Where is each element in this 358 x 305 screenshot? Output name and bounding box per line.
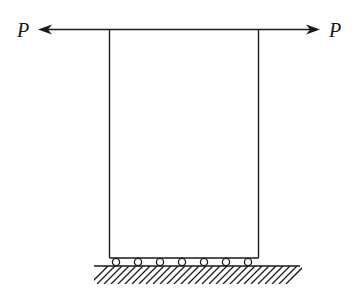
hatched-ground	[90, 266, 304, 284]
right-force-label: P	[328, 19, 341, 41]
left-force-label: P	[16, 19, 29, 41]
roller-supports	[112, 258, 251, 265]
diagram-canvas: P P	[0, 0, 358, 305]
block	[110, 30, 259, 259]
